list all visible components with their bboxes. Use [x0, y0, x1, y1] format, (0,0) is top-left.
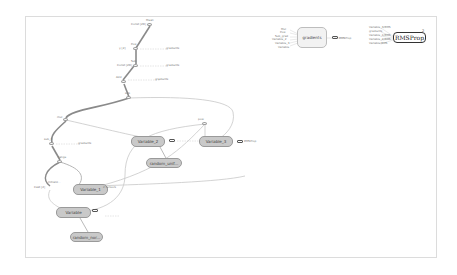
variable-3-side-label: RMSProp: [244, 140, 256, 143]
expand-badge-icon[interactable]: 2: [422, 29, 424, 33]
mean-label: Mean: [146, 19, 154, 22]
pow-op[interactable]: [133, 47, 138, 50]
variable-2-link-icon[interactable]: [169, 139, 175, 142]
range-label: range: [58, 156, 66, 159]
variable-3-node[interactable]: Variable_3: [199, 136, 233, 147]
gradients-label: gradients: [303, 35, 322, 40]
random-uniform-node[interactable]: random_unif...: [146, 158, 182, 168]
variable-2-label: Variable_2: [138, 139, 159, 144]
variable-2-node[interactable]: Variable_2: [131, 136, 165, 147]
const-pow-label: Const [2D]: [117, 64, 132, 67]
gradients-node[interactable]: gradients: [297, 27, 327, 48]
rmsprop-node[interactable]: RMSProp: [393, 32, 426, 43]
gradients-link-1: gradients: [166, 47, 179, 50]
sub-small-label: sub: [125, 92, 130, 95]
sub-op[interactable]: [133, 64, 138, 67]
add-label: Add: [116, 76, 121, 79]
gradients-side-label: RMSProp: [339, 37, 351, 40]
mean-op[interactable]: [147, 23, 152, 26]
gradients-input-5: Variable: [278, 46, 289, 49]
mul-op[interactable]: [63, 118, 68, 121]
pow-op-label: pow: [198, 118, 204, 121]
gradients-link-2: gradients: [166, 64, 179, 67]
cast-label: Cast [2]: [34, 186, 45, 189]
gradients-op[interactable]: [202, 122, 207, 125]
rmsprop-input-4: Variable/RMS: [369, 42, 387, 45]
variable-1-side-label: 2 tensors: [103, 186, 116, 189]
variable-1-label: Variable_1: [80, 187, 101, 192]
variable-3-label: Variable_3: [206, 139, 227, 144]
variable-node[interactable]: Variable: [56, 207, 91, 218]
variable-label: Variable: [65, 210, 81, 215]
random-normal-label: random_nor...: [73, 235, 101, 240]
mul-label: mul: [57, 116, 62, 119]
sub-small-op[interactable]: [126, 96, 131, 99]
random-uniform-label: random_unif...: [150, 161, 179, 166]
gradients-link-3: gradients: [155, 78, 168, 81]
pow-label: Pow: [131, 43, 137, 46]
rmsprop-label: RMSProp: [395, 34, 424, 41]
variable-link-icon[interactable]: [92, 209, 98, 212]
y-input-label: y [2]: [119, 47, 126, 50]
init-label: Initializ...: [48, 181, 61, 184]
const-mean-label: Const [2D]: [131, 23, 146, 26]
gradients-link-icon[interactable]: [332, 36, 338, 39]
range-op[interactable]: [57, 160, 62, 163]
sub3-op[interactable]: [49, 142, 54, 145]
sub3-label: sub_3: [44, 138, 52, 141]
gradients-link-4: gradients: [78, 142, 91, 145]
random-normal-node[interactable]: random_nor...: [70, 232, 103, 242]
variable-3-link-icon[interactable]: [237, 140, 243, 143]
add-op[interactable]: [121, 80, 126, 83]
